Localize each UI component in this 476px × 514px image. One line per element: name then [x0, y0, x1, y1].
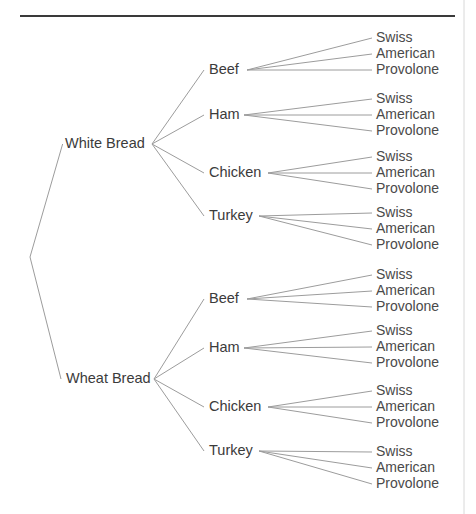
edge-bread-to-meat — [154, 379, 204, 451]
edge-meat-to-cheese — [268, 391, 372, 407]
edge-meat-to-cheese — [259, 451, 372, 484]
edge-root-to-bread — [30, 257, 61, 379]
cheese-leaf-provolone: Provolone — [376, 122, 439, 138]
edge-meat-to-cheese — [259, 213, 372, 216]
edge-bread-to-meat — [154, 299, 204, 379]
edge-meat-to-cheese — [268, 157, 372, 173]
edge-root-to-bread — [30, 144, 63, 257]
edge-meat-to-cheese — [247, 38, 372, 70]
cheese-leaf-swiss: Swiss — [376, 322, 413, 338]
cheese-leaf-swiss: Swiss — [376, 90, 413, 106]
meat-node-beef: Beef — [209, 290, 240, 306]
edge-meat-to-cheese — [268, 173, 372, 189]
edge-meat-to-cheese — [259, 216, 372, 229]
edge-bread-to-meat — [152, 144, 204, 173]
tree-diagram: White BreadBeefSwissAmericanProvoloneHam… — [0, 0, 476, 514]
meat-node-turkey: Turkey — [209, 207, 254, 223]
edge-group — [30, 38, 372, 484]
edge-bread-to-meat — [152, 70, 204, 144]
edge-bread-to-meat — [152, 144, 204, 216]
bread-node-white-bread: White Bread — [65, 135, 145, 151]
cheese-leaf-provolone: Provolone — [376, 414, 439, 430]
edge-meat-to-cheese — [244, 348, 372, 363]
cheese-leaf-swiss: Swiss — [376, 204, 413, 220]
cheese-leaf-provolone: Provolone — [376, 236, 439, 252]
meat-node-chicken: Chicken — [209, 398, 261, 414]
cheese-leaf-american: American — [376, 459, 435, 475]
label-group: White BreadBeefSwissAmericanProvoloneHam… — [65, 29, 439, 491]
cheese-leaf-american: American — [376, 164, 435, 180]
cheese-leaf-american: American — [376, 45, 435, 61]
cheese-leaf-american: American — [376, 220, 435, 236]
edge-bread-to-meat — [154, 348, 204, 379]
edge-meat-to-cheese — [247, 299, 372, 307]
cheese-leaf-american: American — [376, 282, 435, 298]
meat-node-turkey: Turkey — [209, 442, 254, 458]
cheese-leaf-provolone: Provolone — [376, 61, 439, 77]
cheese-leaf-provolone: Provolone — [376, 298, 439, 314]
edge-meat-to-cheese — [244, 99, 372, 115]
edge-meat-to-cheese — [259, 216, 372, 245]
cheese-leaf-provolone: Provolone — [376, 475, 439, 491]
cheese-leaf-swiss: Swiss — [376, 266, 413, 282]
edge-meat-to-cheese — [268, 407, 372, 423]
edge-meat-to-cheese — [247, 54, 372, 70]
cheese-leaf-swiss: Swiss — [376, 148, 413, 164]
meat-node-chicken: Chicken — [209, 164, 261, 180]
edge-meat-to-cheese — [259, 451, 372, 452]
bread-node-wheat-bread: Wheat Bread — [66, 370, 151, 386]
edge-meat-to-cheese — [244, 347, 372, 348]
cheese-leaf-provolone: Provolone — [376, 180, 439, 196]
cheese-leaf-provolone: Provolone — [376, 354, 439, 370]
cheese-leaf-american: American — [376, 106, 435, 122]
cheese-leaf-swiss: Swiss — [376, 382, 413, 398]
edge-meat-to-cheese — [244, 331, 372, 348]
cheese-leaf-american: American — [376, 398, 435, 414]
meat-node-ham: Ham — [209, 106, 240, 122]
edge-bread-to-meat — [154, 379, 204, 407]
cheese-leaf-american: American — [376, 338, 435, 354]
cheese-leaf-swiss: Swiss — [376, 29, 413, 45]
edge-bread-to-meat — [152, 115, 204, 144]
edge-meat-to-cheese — [259, 451, 372, 468]
meat-node-ham: Ham — [209, 339, 240, 355]
cheese-leaf-swiss: Swiss — [376, 443, 413, 459]
meat-node-beef: Beef — [209, 61, 240, 77]
tree-diagram-canvas: White BreadBeefSwissAmericanProvoloneHam… — [0, 0, 476, 514]
edge-meat-to-cheese — [244, 115, 372, 131]
